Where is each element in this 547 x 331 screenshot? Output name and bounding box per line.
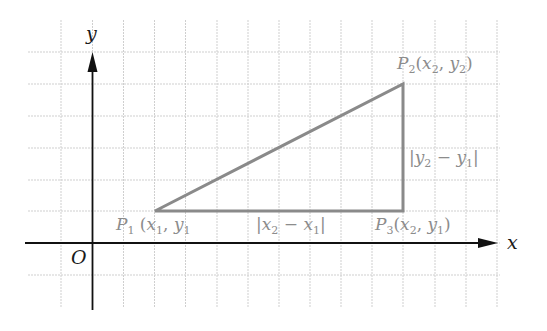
p2-y-sub: 2 [459,63,466,76]
p1-y-sub: 1 [184,224,191,237]
y-axis-label: y [86,22,97,44]
p2-x: x [422,53,432,73]
p3-sub: 3 [386,224,393,237]
x-axis-arrow-icon [478,238,498,248]
horizontal-distance-label: |x2 − x1| [256,214,326,237]
p2-x-sub: 2 [432,63,439,76]
p1-name: P [116,214,127,234]
p1-x-sub: 1 [156,224,163,237]
p1-x: x [147,214,157,234]
coordinate-diagram: y x O P1 (x1, y1 P2(x2, y2) P3(x2, y1) |… [0,0,547,331]
vertical-distance-label: |y2 − y1| [409,147,479,170]
point-p3-label: P3(x2, y1) [375,214,451,237]
p3-x-sub: 2 [410,224,417,237]
p3-y-sub: 1 [437,224,444,237]
p3-y: y [428,214,438,234]
p1-sub: 1 [127,224,134,237]
origin-label: O [71,246,87,268]
p2-y: y [450,53,460,73]
point-p1-label: P1 (x1, y1 [116,214,191,237]
p2-name: P [397,53,408,73]
point-p2-label: P2(x2, y2) [397,53,473,76]
p1-y: y [174,214,184,234]
p3-x: x [400,214,410,234]
p2-sub: 2 [408,63,415,76]
y-axis-arrow-icon [88,52,98,72]
p3-name: P [375,214,386,234]
x-axis-label: x [507,231,518,253]
